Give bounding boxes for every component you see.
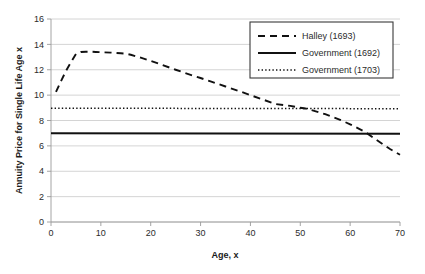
x-tick-label-20: 20 bbox=[146, 228, 156, 238]
annuity-price-line-chart: 0246810121416 010203040506070 Annuity Pr… bbox=[0, 0, 425, 274]
x-axis-title: Age, x bbox=[211, 250, 238, 260]
y-axis-tick-labels: 0246810121416 bbox=[34, 14, 44, 227]
x-axis-tick-labels: 010203040506070 bbox=[48, 228, 405, 238]
x-tick-label-70: 70 bbox=[395, 228, 405, 238]
legend-label-1: Government (1692) bbox=[302, 48, 380, 58]
y-tick-label-2: 2 bbox=[39, 192, 44, 202]
x-tick-label-50: 50 bbox=[295, 228, 305, 238]
x-tick-label-40: 40 bbox=[245, 228, 255, 238]
y-tick-label-0: 0 bbox=[39, 217, 44, 227]
x-tick-label-10: 10 bbox=[96, 228, 106, 238]
y-tick-label-10: 10 bbox=[34, 90, 44, 100]
y-axis-title: Annuity Price for Single Life Age x bbox=[14, 47, 24, 194]
x-tick-label-30: 30 bbox=[196, 228, 206, 238]
y-tick-label-8: 8 bbox=[39, 116, 44, 126]
y-tick-label-12: 12 bbox=[34, 65, 44, 75]
chart-legend: Halley (1693)Government (1692)Government… bbox=[250, 22, 393, 78]
legend-label-0: Halley (1693) bbox=[302, 31, 356, 41]
y-tick-label-6: 6 bbox=[39, 141, 44, 151]
x-tick-label-60: 60 bbox=[345, 228, 355, 238]
chart-container: 0246810121416 010203040506070 Annuity Pr… bbox=[0, 0, 425, 274]
y-tick-label-14: 14 bbox=[34, 40, 44, 50]
x-tick-label-0: 0 bbox=[48, 228, 53, 238]
series-line-1 bbox=[51, 133, 400, 134]
y-tick-label-4: 4 bbox=[39, 166, 44, 176]
legend-label-2: Government (1703) bbox=[302, 65, 380, 75]
y-tick-label-16: 16 bbox=[34, 14, 44, 24]
